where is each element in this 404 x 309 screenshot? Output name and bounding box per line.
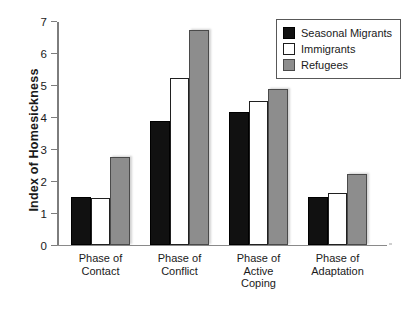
legend: Seasonal Migrants Immigrants Refugees [276,19,401,79]
legend-swatch-icon [283,27,295,39]
bar-refugees [347,174,367,244]
y-axis-tick-label: 0 [29,241,47,253]
legend-item-label: Refugees [301,59,348,71]
bar-refugees [110,157,130,245]
y-axis-line [57,22,59,246]
legend-item-refugees: Refugees [283,57,393,73]
bar-seasonal-migrants [150,121,170,244]
y-axis-tick-label: 7 [29,17,47,29]
y-axis-tick [51,21,57,22]
bar-group [71,21,130,245]
y-axis-tick [51,149,57,150]
legend-swatch-icon [283,59,295,71]
y-axis-tick-label: 4 [29,113,47,125]
bar-group [150,21,209,245]
legend-item-label: Immigrants [301,43,355,55]
bar-refugees [189,30,209,244]
y-axis-tick-label: 5 [29,81,47,93]
y-axis-tick [51,245,57,246]
bar-refugees [268,89,288,245]
bar-immigrants [170,78,190,244]
bar-seasonal-migrants [308,197,328,245]
legend-item-immigrants: Immigrants [283,41,393,57]
y-axis-tick-label: 3 [29,145,47,157]
bar-seasonal-migrants [71,197,91,245]
legend-item-label: Seasonal Migrants [301,27,392,39]
bar-immigrants [91,198,111,244]
bar-seasonal-migrants [229,112,249,245]
y-axis-tick [51,53,57,54]
y-axis-tick [51,213,57,214]
scan-artifact [389,243,392,245]
x-axis-category-label: Phase of Adaptation [290,252,385,277]
bar-immigrants [328,193,348,244]
legend-item-seasonal-migrants: Seasonal Migrants [283,25,393,41]
homesickness-bar-chart: Index of Homesickness 01234567 Phase of … [0,0,404,309]
y-axis-tick-label: 6 [29,49,47,61]
y-axis-tick [51,85,57,86]
legend-swatch-icon [283,43,295,55]
x-axis-line [57,245,387,247]
y-axis-tick-label: 2 [29,177,47,189]
bar-immigrants [249,101,269,245]
y-axis-tick [51,181,57,182]
y-axis-tick [51,117,57,118]
y-axis-tick-label: 1 [29,209,47,221]
